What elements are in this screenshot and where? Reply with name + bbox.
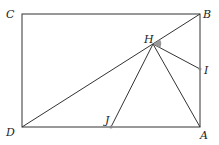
label-a: A xyxy=(199,129,208,142)
label-d: D xyxy=(5,126,15,139)
point-j-marker xyxy=(110,126,113,129)
label-b: B xyxy=(202,8,211,21)
label-i: I xyxy=(203,64,209,77)
point-i-marker xyxy=(199,68,202,71)
segment-hj xyxy=(111,44,153,127)
segment-db xyxy=(22,14,200,127)
label-h: H xyxy=(143,33,154,46)
label-j: J xyxy=(103,114,110,127)
label-c: C xyxy=(6,8,15,21)
geometry-diagram: C B D A H I J xyxy=(0,0,219,145)
